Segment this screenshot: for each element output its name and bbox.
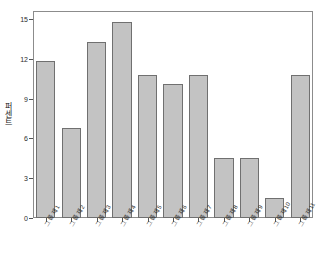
x-tick-label: 그룹 제4 [120,204,137,227]
x-tick-label: 그룹 제2 [69,204,86,227]
x-tick-mark [122,218,123,222]
x-tick-label: 그룹 제3 [95,204,112,227]
x-tick-mark [198,218,199,222]
x-tick-mark [46,218,47,222]
x-tick-label: 그룹 제1 [44,204,61,227]
x-tick-label: 그룹 제9 [247,204,264,227]
x-tick-label: 그룹 제11 [298,202,316,227]
x-tick-mark [224,218,225,222]
x-tick-mark [300,218,301,222]
x-axis-tick-labels: 그룹 제1그룹 제2그룹 제3그룹 제4그룹 제5그룹 제6그룹 제7그룹 제8… [0,0,328,270]
x-tick-mark [173,218,174,222]
bar-chart: 퍼센트 03691215 그룹 제1그룹 제2그룹 제3그룹 제4그룹 제5그룹… [0,0,328,270]
x-tick-mark [148,218,149,222]
x-tick-label: 그룹 제10 [273,201,291,227]
x-tick-mark [97,218,98,222]
x-tick-label: 그룹 제7 [196,204,213,227]
x-tick-label: 그룹 제8 [222,204,239,227]
x-tick-mark [275,218,276,222]
x-tick-mark [71,218,72,222]
x-tick-label: 그룹 제6 [171,204,188,227]
x-tick-label: 그룹 제5 [146,204,163,227]
x-tick-mark [249,218,250,222]
